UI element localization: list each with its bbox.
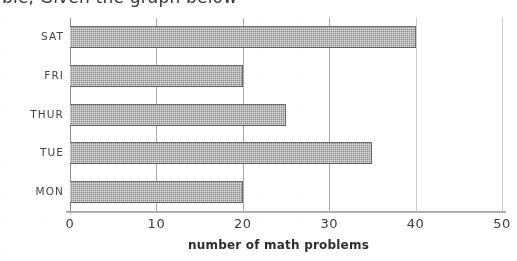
cut-off-text-strip: ble, Given the graph below bbox=[0, 0, 517, 13]
x-axis-line bbox=[66, 211, 506, 213]
x-tick-30: 30 bbox=[320, 216, 338, 231]
category-axis-labels: SATFRITHURTUEMON bbox=[0, 18, 64, 211]
bar-thur bbox=[70, 104, 286, 126]
bar-sat bbox=[70, 26, 416, 48]
x-tick-20: 20 bbox=[234, 216, 252, 231]
bar-fri bbox=[70, 65, 243, 87]
gridline-40 bbox=[416, 18, 417, 211]
category-label-tue: TUE bbox=[2, 146, 64, 158]
plot-area bbox=[70, 18, 502, 211]
category-label-thur: THUR bbox=[2, 108, 64, 120]
bar-tue bbox=[70, 142, 372, 164]
category-label-sat: SAT bbox=[2, 30, 64, 42]
gridline-50 bbox=[502, 18, 503, 211]
x-tick-10: 10 bbox=[148, 216, 166, 231]
x-axis-title: number of math problems bbox=[0, 238, 517, 252]
x-tick-50: 50 bbox=[493, 216, 511, 231]
category-label-mon: MON bbox=[2, 185, 64, 197]
bar-mon bbox=[70, 181, 243, 203]
x-tick-0: 0 bbox=[66, 216, 75, 231]
cut-off-text: ble, Given the graph below bbox=[2, 0, 237, 7]
category-label-fri: FRI bbox=[2, 69, 64, 81]
x-tick-40: 40 bbox=[407, 216, 425, 231]
scanned-page: ble, Given the graph below SATFRITHURTUE… bbox=[0, 0, 517, 261]
